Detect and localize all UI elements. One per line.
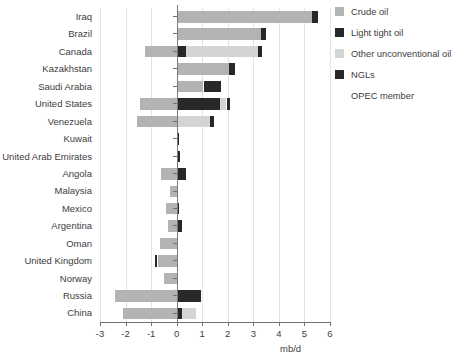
- bar-segment: [182, 308, 196, 320]
- x-axis-tick-label: 5: [292, 328, 316, 339]
- bar-segment: [177, 81, 204, 93]
- x-axis-tick-label: 4: [267, 328, 291, 339]
- y-axis-tick: [173, 138, 177, 139]
- y-axis-label: Oman: [0, 235, 96, 252]
- x-axis-tick: [202, 322, 203, 326]
- bar-segment: [258, 46, 262, 58]
- y-axis-label: Iraq: [0, 8, 96, 25]
- x-axis-title: mb/d: [280, 343, 301, 354]
- x-axis-tick: [151, 322, 152, 326]
- y-axis-tick: [173, 103, 177, 104]
- y-axis-label: United Kingdom: [0, 252, 96, 269]
- oil-supply-change-chart: IraqBrazilCanadaKazakhstanSaudi ArabiaUn…: [0, 0, 459, 362]
- x-axis-tick-label: 0: [165, 328, 189, 339]
- bar-segment: [155, 255, 158, 267]
- y-axis-tick: [173, 121, 177, 122]
- y-axis-tick: [173, 51, 177, 52]
- bar-segment: [177, 11, 312, 23]
- legend-swatch: [335, 70, 344, 79]
- x-axis-tick: [100, 322, 101, 326]
- x-axis-tick-label: 1: [190, 328, 214, 339]
- bar-row: [100, 8, 330, 25]
- y-axis-label: United Arab Emirates: [0, 148, 96, 165]
- bar-segment: [177, 116, 210, 128]
- legend-swatch: [335, 49, 344, 58]
- x-axis-tick: [228, 322, 229, 326]
- bar-segment: [177, 28, 261, 40]
- y-axis-tick: [173, 86, 177, 87]
- y-axis-label: Argentina: [0, 217, 96, 234]
- bar-segment: [204, 81, 222, 93]
- legend-swatch: [335, 28, 344, 37]
- bar-segment: [227, 98, 231, 110]
- x-axis-tick-label: 3: [241, 328, 265, 339]
- bar-row: [100, 252, 330, 269]
- y-axis-label: Kazakhstan: [0, 60, 96, 77]
- bar-segment: [177, 46, 186, 58]
- x-axis-tick: [330, 322, 331, 326]
- bar-row: [100, 113, 330, 130]
- x-axis-tick: [279, 322, 280, 326]
- bar-segment: [177, 98, 220, 110]
- bar-segment: [137, 116, 177, 128]
- bar-row: [100, 217, 330, 234]
- y-axis-tick: [173, 173, 177, 174]
- y-axis-label: Malaysia: [0, 182, 96, 199]
- y-axis-tick: [173, 156, 177, 157]
- bar-row: [100, 235, 330, 252]
- legend-label: Crude oil: [351, 6, 388, 18]
- legend-item: OPEC member: [335, 90, 459, 111]
- bar-row: [100, 60, 330, 77]
- y-axis-tick: [173, 295, 177, 296]
- y-axis-tick: [173, 278, 177, 279]
- bar-row: [100, 165, 330, 182]
- bar-row: [100, 287, 330, 304]
- y-axis-tick: [173, 225, 177, 226]
- y-axis-tick: [173, 208, 177, 209]
- y-axis-tick: [173, 16, 177, 17]
- y-axis-label: Canada: [0, 43, 96, 60]
- y-axis-tick: [173, 243, 177, 244]
- y-axis-label: Angola: [0, 165, 96, 182]
- y-axis-label: United States: [0, 95, 96, 112]
- x-axis-tick: [253, 322, 254, 326]
- bar-row: [100, 148, 330, 165]
- bar-row: [100, 78, 330, 95]
- bar-segment: [312, 11, 318, 23]
- bar-segment: [115, 290, 176, 302]
- legend-label: OPEC member: [351, 90, 414, 102]
- chart-legend: Crude oilLight tight oilOther unconventi…: [335, 6, 459, 111]
- bar-segment: [186, 46, 259, 58]
- bar-row: [100, 270, 330, 287]
- x-axis-tick-label: 2: [216, 328, 240, 339]
- x-axis-line: [100, 322, 330, 323]
- zero-axis-line: [177, 5, 178, 323]
- legend-item: Light tight oil: [335, 27, 459, 48]
- bar-row: [100, 200, 330, 217]
- bar-segment: [210, 116, 214, 128]
- legend-item: NGLs: [335, 69, 459, 90]
- y-axis-label: Mexico: [0, 200, 96, 217]
- y-axis-category-labels: IraqBrazilCanadaKazakhstanSaudi ArabiaUn…: [0, 8, 96, 322]
- x-axis-tick: [304, 322, 305, 326]
- legend-item: Other unconventional oil: [335, 48, 459, 69]
- legend-label: Light tight oil: [351, 27, 403, 39]
- y-axis-label: Norway: [0, 270, 96, 287]
- y-axis-label: Brazil: [0, 25, 96, 42]
- bar-row: [100, 130, 330, 147]
- y-axis-tick: [173, 68, 177, 69]
- bar-row: [100, 95, 330, 112]
- y-axis-label: Saudi Arabia: [0, 78, 96, 95]
- y-axis-tick: [173, 313, 177, 314]
- x-axis-tick-label: -2: [114, 328, 138, 339]
- bar-segment: [261, 28, 266, 40]
- y-axis-tick: [173, 191, 177, 192]
- plot-area: [100, 8, 330, 322]
- y-axis-tick: [173, 33, 177, 34]
- y-axis-label: Russia: [0, 287, 96, 304]
- legend-swatch: [335, 7, 344, 16]
- bar-segment: [229, 63, 235, 75]
- bar-segment: [140, 98, 177, 110]
- legend-label: Other unconventional oil: [351, 48, 451, 60]
- y-axis-label: Venezuela: [0, 113, 96, 130]
